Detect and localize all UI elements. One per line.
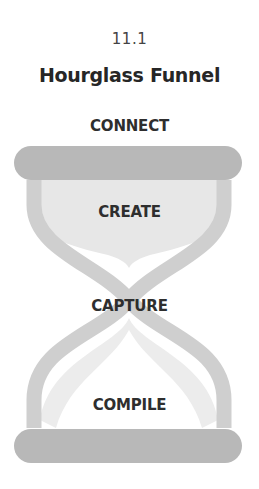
figure-number: 11.1 bbox=[0, 30, 259, 48]
stage-connect-label: CONNECT bbox=[0, 117, 259, 135]
top-bar bbox=[14, 146, 242, 180]
figure-title: Hourglass Funnel bbox=[0, 64, 259, 86]
stage-compile-label: COMPILE bbox=[0, 396, 259, 414]
stage-create-label: CREATE bbox=[0, 203, 259, 221]
bottom-bar bbox=[14, 429, 242, 463]
stage-capture-label: CAPTURE bbox=[0, 297, 259, 315]
